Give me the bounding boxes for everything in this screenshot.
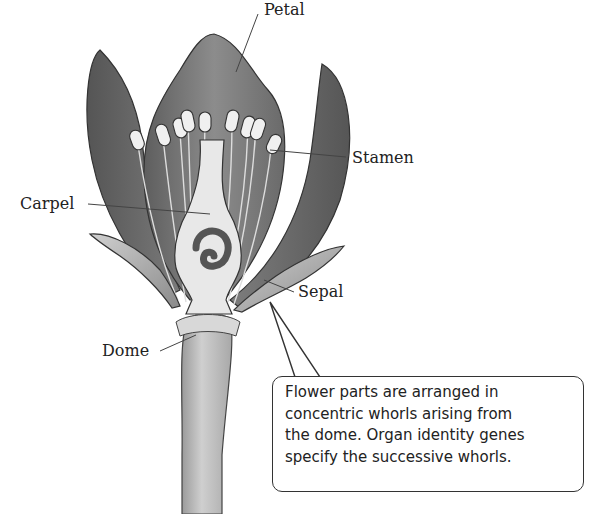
label-stamen: Stamen <box>352 148 414 167</box>
label-dome: Dome <box>102 341 149 360</box>
stem <box>182 315 232 514</box>
callout-line: the dome. Organ identity genes <box>285 425 583 447</box>
callout-line: Flower parts are arranged in <box>285 382 583 404</box>
callout-line: specify the successive whorls. <box>285 447 583 469</box>
label-petal: Petal <box>264 0 305 19</box>
callout-box: Flower parts are arranged in concentric … <box>272 376 584 492</box>
callout-pointer <box>270 302 320 377</box>
label-carpel: Carpel <box>20 194 74 213</box>
label-sepal: Sepal <box>298 282 343 301</box>
callout-line: concentric whorls arising from <box>285 404 583 426</box>
